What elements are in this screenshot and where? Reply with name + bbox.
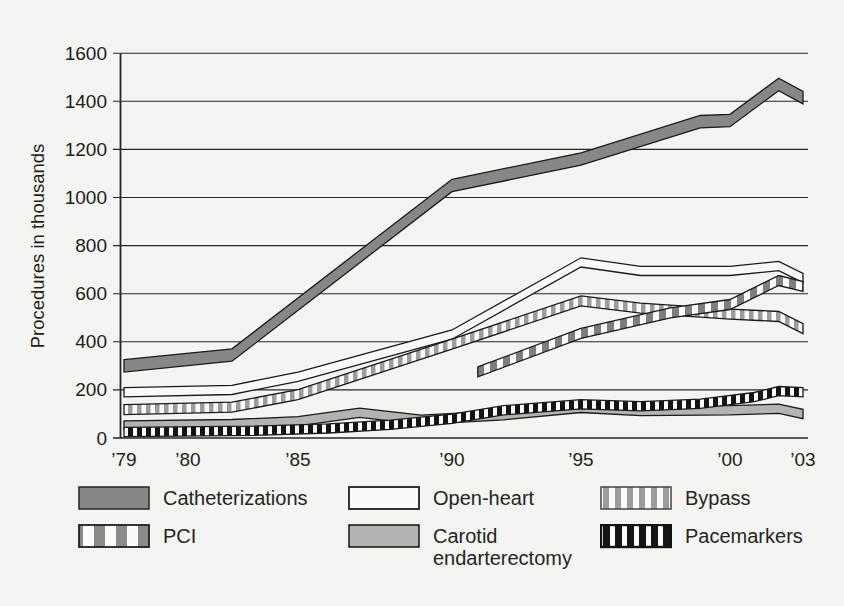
x-tick-label: ’85: [285, 449, 310, 470]
procedures-chart: Procedures in thousands 0200400600800100…: [0, 0, 844, 478]
legend-label: Catheterizations: [163, 486, 308, 509]
pci-swatch-icon: [78, 524, 150, 549]
y-tick-label: 800: [75, 235, 107, 256]
y-tick-label: 600: [75, 283, 107, 304]
procedures-chart-plot: Procedures in thousands 0200400600800100…: [0, 0, 844, 478]
legend-label: Pacemarkers: [685, 524, 803, 547]
plot-group: 02004006008001000120014001600’79’80’85’9…: [65, 43, 816, 470]
y-tick-label: 400: [75, 331, 107, 352]
y-tick-label: 0: [96, 428, 107, 449]
y-tick-label: 1600: [65, 43, 107, 64]
figure-page: Procedures in thousands 0200400600800100…: [0, 0, 844, 606]
legend-item-bypass: Bypass: [600, 486, 810, 511]
open-heart-band: [124, 258, 803, 397]
catheterizations-swatch-icon: [78, 486, 150, 511]
legend-item-catheterizations: Catheterizations: [78, 486, 348, 511]
carotid-endarterectomy-swatch-icon: [348, 524, 420, 549]
legend-label: PCI: [163, 524, 196, 547]
x-tick-label: ’90: [439, 449, 464, 470]
legend-label: Carotid endarterectomy: [433, 524, 585, 569]
x-tick-label: ’95: [568, 449, 593, 470]
y-tick-label: 1200: [65, 139, 107, 160]
open-heart-swatch-icon: [348, 486, 420, 511]
legend-item-pci: PCI: [78, 524, 348, 569]
x-tick-label: ’79: [111, 449, 136, 470]
chart-legend: Catheterizations Open-heart Bypass PCI C: [78, 486, 810, 569]
legend-item-pacemarkers: Pacemarkers: [600, 524, 810, 569]
x-tick-label: ’00: [717, 449, 742, 470]
bypass-swatch-icon: [600, 486, 672, 511]
legend-label: Bypass: [685, 486, 751, 509]
legend-item-open-heart: Open-heart: [348, 486, 600, 511]
legend-label: Open-heart: [433, 486, 534, 509]
legend-item-carotid-endarterectomy: Carotid endarterectomy: [348, 524, 600, 569]
x-tick-label: ’03: [790, 449, 815, 470]
y-tick-label: 1400: [65, 91, 107, 112]
x-tick-label: ’80: [175, 449, 200, 470]
y-tick-label: 200: [75, 379, 107, 400]
pacemarkers-swatch-icon: [600, 524, 672, 549]
y-axis-title: Procedures in thousands: [27, 144, 48, 349]
y-tick-label: 1000: [65, 187, 107, 208]
